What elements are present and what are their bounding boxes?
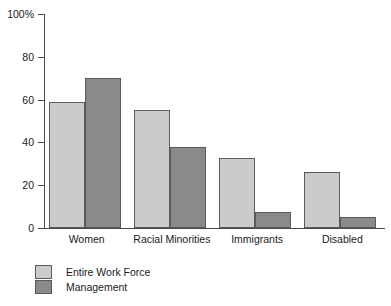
bar xyxy=(170,147,206,228)
y-axis-tick-label: 0 xyxy=(28,223,34,234)
bar xyxy=(340,217,376,228)
y-axis-tick-label: 100% xyxy=(7,9,34,20)
x-axis-category-label: Disabled xyxy=(300,233,385,245)
plot-area xyxy=(44,14,384,228)
bar xyxy=(304,172,340,228)
y-axis-tick-label: 40 xyxy=(22,137,34,148)
legend-swatch xyxy=(35,265,52,279)
bar-chart: 020406080100% WomenRacial MinoritiesImmi… xyxy=(0,0,391,306)
bar xyxy=(134,110,170,228)
legend-label: Entire Work Force xyxy=(66,266,150,278)
bar xyxy=(49,102,85,228)
bar xyxy=(85,78,121,228)
bar xyxy=(255,212,291,228)
legend-item: Management xyxy=(35,279,150,294)
y-axis-tick-mark xyxy=(38,228,44,229)
legend-item: Entire Work Force xyxy=(35,264,150,279)
legend-label: Management xyxy=(66,281,127,293)
x-axis-category-label: Women xyxy=(44,233,129,245)
x-axis-line xyxy=(44,228,385,229)
y-axis-tick-label: 80 xyxy=(22,52,34,63)
chart-legend: Entire Work ForceManagement xyxy=(35,264,150,294)
x-axis-category-label: Racial Minorities xyxy=(129,233,214,245)
y-axis-tick-label: 20 xyxy=(22,180,34,191)
y-axis-tick-label: 60 xyxy=(22,95,34,106)
bar xyxy=(219,158,255,228)
legend-swatch xyxy=(35,280,52,294)
x-axis-category-label: Immigrants xyxy=(215,233,300,245)
